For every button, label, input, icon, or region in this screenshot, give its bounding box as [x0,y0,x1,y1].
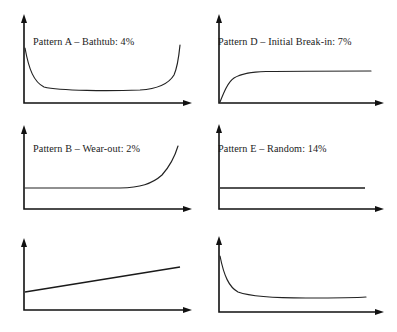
panel-d-curve [220,71,371,102]
panel-e-plot [196,110,397,220]
panel-a-y-axis-arrow-icon [21,14,27,23]
panel-pattern-b: Pattern B – Wear-out: 2% [0,110,198,220]
panel-d-x-axis-arrow-icon [375,100,384,106]
panel-pattern-f: Pattern F – Infant Mortality: 68% [196,218,397,332]
panel-f-axes [219,242,378,312]
panel-b-plot [0,110,198,220]
panel-d-y-axis-arrow-icon [216,14,222,23]
panel-b-x-axis-arrow-icon [183,206,192,212]
failure-pattern-figure: Pattern A – Bathtub: 4% Pattern D – Init… [0,0,397,332]
panel-pattern-e: Pattern E – Random: 14% [196,110,397,220]
panel-a-plot [0,0,198,112]
panel-c-plot [0,218,198,332]
panel-b-y-axis-arrow-icon [21,125,27,134]
panel-c-curve [25,267,180,292]
panel-a-curve [25,45,180,91]
panel-b-label: Pattern B – Wear-out: 2% [33,143,140,154]
panel-e-x-axis-arrow-icon [375,206,384,212]
panel-f-x-axis-arrow-icon [375,309,384,315]
panel-f-y-axis-arrow-icon [216,236,222,245]
panel-d-plot [196,0,397,112]
panel-d-axes [219,20,378,103]
panel-e-y-axis-arrow-icon [216,124,222,133]
panel-a-x-axis-arrow-icon [183,100,192,106]
panel-c-y-axis-arrow-icon [21,238,27,247]
panel-d-label: Pattern D – Initial Break-in: 7% [218,36,352,47]
panel-pattern-c: Pattern C – Fatigue: 5% [0,218,198,332]
panel-pattern-a: Pattern A – Bathtub: 4% [0,0,198,112]
panel-e-label: Pattern E – Random: 14% [218,143,327,154]
panel-pattern-d: Pattern D – Initial Break-in: 7% [196,0,397,112]
panel-c-axes [24,244,186,310]
panel-f-curve [220,256,366,298]
panel-a-label: Pattern A – Bathtub: 4% [33,36,134,47]
panel-c-x-axis-arrow-icon [183,307,192,313]
panel-f-plot [196,218,397,332]
